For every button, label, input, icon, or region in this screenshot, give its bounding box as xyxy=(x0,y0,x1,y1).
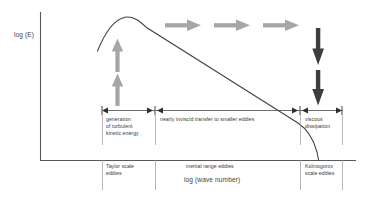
energy-input-arrows xyxy=(112,39,123,107)
axis-lines xyxy=(40,12,356,161)
scale-label-taylor: Taylor scale eddies xyxy=(106,163,154,177)
up-arrow-icon-1 xyxy=(112,39,123,73)
energy-spectrum-curve xyxy=(98,17,319,160)
right-arrow-icon-3 xyxy=(263,20,299,31)
scale-label-inertial-range: inertial range eddies xyxy=(186,163,306,170)
down-arrow-icon-2 xyxy=(312,70,324,106)
region-label-generation: generation of turbulent kinetic energy xyxy=(106,116,154,137)
scale-label-kolmogorov: Kolmogorov scale eddies xyxy=(305,163,353,177)
turbulence-energy-cascade-diagram: log (E) log (wave number) generation of … xyxy=(0,0,369,198)
down-arrow-icon-1 xyxy=(312,28,324,65)
y-axis-label: log (E) xyxy=(14,31,34,38)
upper-region-dimension-line xyxy=(102,106,342,115)
right-arrow-icon-1 xyxy=(165,20,201,31)
region-label-viscous-dissipation: viscous dissipation xyxy=(305,116,345,130)
right-arrow-icon-2 xyxy=(214,20,250,31)
x-axis-label: log (wave number) xyxy=(184,176,240,183)
energy-transfer-arrows xyxy=(165,20,299,31)
up-arrow-icon-2 xyxy=(112,74,123,107)
region-label-inviscid-transfer: nearly inviscid transfer to smaller eddi… xyxy=(160,116,300,123)
dissipation-arrows xyxy=(312,28,324,106)
